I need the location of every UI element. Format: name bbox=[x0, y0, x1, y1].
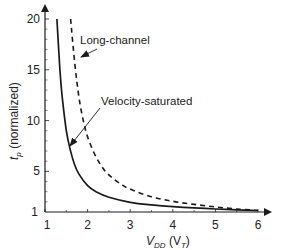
arrow-long-channel bbox=[81, 49, 97, 57]
annotations: Long-channel Velocity-saturated bbox=[70, 34, 192, 146]
y-tick-label: 15 bbox=[27, 63, 41, 77]
y-axis-label: tp (normalized) bbox=[7, 82, 23, 160]
long-channel-curve bbox=[71, 19, 258, 211]
x-tick-label: 1 bbox=[44, 218, 51, 232]
y-ticks: 15101520 bbox=[27, 12, 49, 219]
x-tick-label: 3 bbox=[127, 218, 134, 232]
y-tick-label: 10 bbox=[27, 114, 41, 128]
x-tick-label: 4 bbox=[169, 218, 176, 232]
x-tick-label: 5 bbox=[212, 218, 219, 232]
velocity-saturated-curve bbox=[57, 19, 258, 211]
y-tick-label: 5 bbox=[33, 164, 40, 178]
x-axis-label: VDD (VT) bbox=[146, 234, 190, 250]
annotation-velocity-saturated: Velocity-saturated bbox=[101, 95, 192, 107]
arrow-velocity-saturated bbox=[70, 108, 100, 146]
y-tick-label: 20 bbox=[27, 12, 41, 26]
annotation-long-channel: Long-channel bbox=[80, 34, 150, 46]
y-tick-label: 1 bbox=[31, 205, 38, 219]
series-group bbox=[57, 19, 258, 211]
x-tick-label: 2 bbox=[84, 218, 91, 232]
chart: 123456 15101520 Long-channel Velocity-sa… bbox=[0, 0, 290, 250]
x-tick-label: 6 bbox=[255, 218, 262, 232]
